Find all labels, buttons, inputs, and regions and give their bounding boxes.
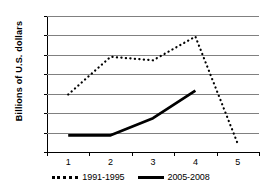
x-tick-label: 5 [223, 157, 253, 167]
dotted-line-swatch-icon [52, 176, 78, 179]
line-chart: Billions of U.S. dollars 05101520253035 … [0, 0, 262, 194]
chart-legend: 1991-1995 2005-2008 [0, 172, 262, 182]
plot-area: 05101520253035 [47, 16, 259, 152]
x-tick-label: 2 [96, 157, 126, 167]
x-tick-label: 4 [180, 157, 210, 167]
series-layer [47, 16, 259, 152]
series-line-2005-2008 [68, 91, 195, 136]
x-tick-mark [174, 152, 175, 156]
legend-label: 1991-1995 [82, 172, 124, 182]
x-tick-mark [217, 152, 218, 156]
series-line-1991-1995 [68, 37, 238, 144]
legend-entry-1991-1995: 1991-1995 [52, 172, 124, 182]
x-tick-mark [259, 152, 260, 156]
x-tick-label: 1 [53, 157, 83, 167]
x-tick-mark [47, 152, 48, 156]
y-axis-title: Billions of U.S. dollars [14, 0, 24, 146]
legend-entry-2005-2008: 2005-2008 [138, 172, 210, 182]
x-axis-line [47, 152, 259, 153]
legend-label: 2005-2008 [168, 172, 210, 182]
solid-line-swatch-icon [138, 176, 164, 179]
x-tick-mark [89, 152, 90, 156]
x-tick-label: 3 [138, 157, 168, 167]
x-tick-mark [132, 152, 133, 156]
